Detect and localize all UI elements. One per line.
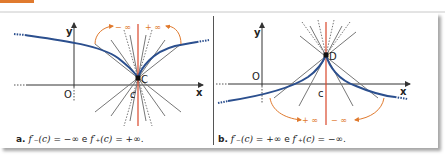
- left-limit-arc-b: [270, 98, 301, 120]
- left-limit-label-b: + ∞: [302, 116, 318, 125]
- right-limit-label-b: − ∞: [331, 116, 347, 125]
- tick-label-a: c: [130, 89, 136, 100]
- right-limit-arc-a: [168, 26, 181, 44]
- function-curve-a-dotted-right: [197, 40, 209, 42]
- caption-b-right-derivative: f′₊(c): [290, 134, 315, 144]
- left-limit-arc-a: [95, 26, 113, 44]
- y-axis-label-b: y: [254, 27, 261, 38]
- origin-label-b: O: [252, 71, 260, 82]
- function-curve-a-dotted-left: [14, 34, 25, 35]
- point-d-marker: [324, 53, 329, 58]
- caption-b: b. f′₋(c) = +∞ e f′₊(c) = −∞.: [218, 134, 346, 144]
- caption-b-letter: b.: [218, 134, 228, 144]
- x-axis-label-b: x: [400, 86, 407, 97]
- caption-b-left-derivative: f′₋(c): [231, 134, 253, 144]
- point-label-b: D: [329, 51, 337, 62]
- caption-b-value-1: = +∞: [253, 134, 284, 144]
- caption-a-right-derivative: f′₊(c): [87, 134, 112, 144]
- right-limit-arc-b: [355, 98, 384, 120]
- left-limit-label-a: − ∞: [115, 23, 131, 32]
- point-label-a: C: [141, 74, 148, 85]
- caption-a-value-1: = −∞: [51, 134, 82, 144]
- right-limit-label-a: + ∞: [145, 23, 161, 32]
- caption-a: a. f′₋(c) = −∞ e f′₊(c) = +∞.: [16, 134, 144, 144]
- origin-label-a: O: [64, 89, 72, 100]
- caption-b-value-2: = −∞.: [315, 134, 346, 144]
- point-c-marker: [136, 76, 141, 81]
- x-axis-label-a: x: [196, 87, 203, 98]
- graph-a: y x O C c − ∞ + ∞: [14, 23, 209, 126]
- function-curve-b-dotted-right: [395, 97, 408, 99]
- caption-a-value-2: = +∞.: [112, 134, 143, 144]
- caption-a-letter: a.: [16, 134, 26, 144]
- function-curve-b-dotted-left: [218, 101, 228, 103]
- tick-label-b: c: [318, 88, 324, 99]
- graph-b: y x O D c + ∞ − ∞: [216, 20, 410, 125]
- y-axis-label-a: y: [66, 26, 73, 37]
- caption-a-left-derivative: f′₋(c): [28, 134, 50, 144]
